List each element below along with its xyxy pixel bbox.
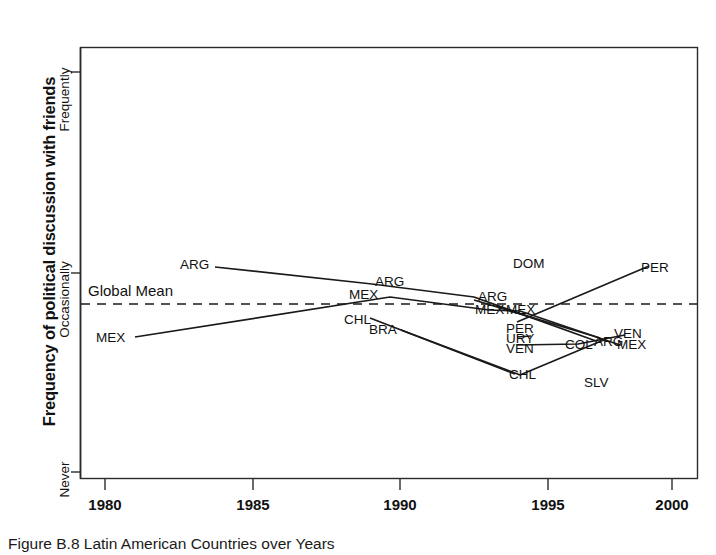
point-label-ven-1995: VEN [506,342,534,356]
point-label-arg-1991: ARG [375,275,404,289]
point-label-chl-1990: CHL [344,313,371,327]
y-tick-label-frequently: Frequently [57,50,72,150]
series-line-bra [401,330,520,375]
point-label-mex-1981: MEX [96,331,125,345]
point-label-bra-1991: BRA [369,323,397,337]
figure-caption: Figure B.8 Latin American Countries over… [8,535,335,555]
figure-panel: Frequency of political discussion with f… [0,0,716,555]
point-label-mex-1995a: MEX [475,303,504,317]
point-label-slv-1998: SLV [584,376,609,390]
point-label-mex-1999: MEX [617,338,646,352]
global-mean-label: Global Mean [88,282,173,299]
plot-frame [81,48,698,479]
point-label-mex-1990: MEX [349,288,378,302]
y-tick-label-occasionally: Occasionally [57,244,72,356]
y-axis-ticks [71,72,80,472]
chart-plot-area [0,0,716,555]
point-label-mex-1995b: MEX [506,303,535,317]
point-label-arg-1984: ARG [180,258,209,272]
series-line-per [517,266,649,322]
x-axis-ticks [105,479,672,490]
x-tick-label-1995: 1995 [513,496,583,513]
point-label-dom-1996: DOM [513,257,545,271]
point-label-chl-1995: CHL [509,368,536,382]
x-tick-label-1985: 1985 [218,496,288,513]
x-tick-label-2000: 2000 [637,496,707,513]
x-tick-label-1980: 1980 [70,496,140,513]
point-label-col-1997: COL [565,338,593,352]
point-label-per-2000: PER [641,261,669,275]
x-tick-label-1990: 1990 [365,496,435,513]
